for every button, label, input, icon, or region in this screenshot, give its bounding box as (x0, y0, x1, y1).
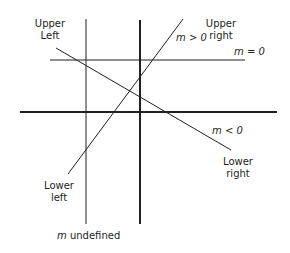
upper-right-label: Upper right (205, 18, 237, 42)
m-negative-label: m < 0 (212, 125, 243, 137)
m-negative-line (56, 48, 231, 150)
m-zero-label: m = 0 (234, 46, 265, 58)
lower-left-label: Lower left (43, 180, 75, 204)
m-positive-label: m > 0 (176, 32, 207, 44)
upper-left-label: Upper Left (34, 18, 66, 42)
m-undefined-label: m undefined (57, 230, 120, 242)
m-positive-line (68, 19, 183, 174)
lower-right-label: Lower right (222, 156, 254, 180)
